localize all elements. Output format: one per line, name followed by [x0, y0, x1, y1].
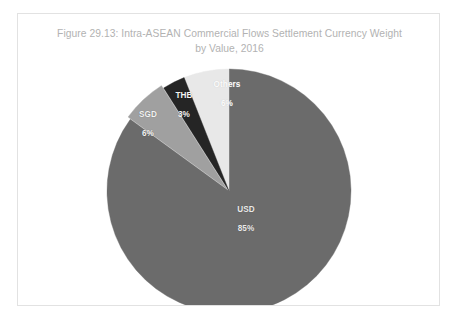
pie-chart: USD 85% Others 6% THB 3% SGD 6%: [18, 14, 440, 306]
pie-slice-group: [107, 69, 351, 306]
figure-panel: Figure 29.13: Intra-ASEAN Commercial Flo…: [17, 13, 440, 306]
pie-chart-svg: [18, 14, 440, 306]
